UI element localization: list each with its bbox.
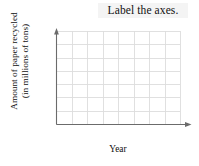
worksheet-canvas: Label the axes. Amount of paper recycled… — [0, 0, 199, 166]
axis-lines — [54, 28, 191, 127]
arrow-right-icon — [185, 122, 192, 127]
gridlines — [56, 31, 181, 125]
plot-area — [0, 0, 199, 166]
